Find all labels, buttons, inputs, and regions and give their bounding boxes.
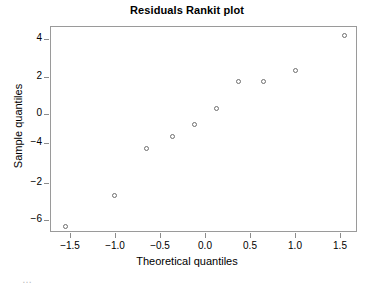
y-tick-mark <box>44 77 49 78</box>
x-tick-label: −1.0 <box>95 240 135 251</box>
x-tick-label: 1.5 <box>320 240 360 251</box>
data-point <box>342 33 347 38</box>
x-tick-label: −0.5 <box>140 240 180 251</box>
x-tick-label: 1.0 <box>275 240 315 251</box>
clipped-caption: … <box>0 276 374 285</box>
y-tick-label: 4 <box>12 32 42 43</box>
plot-area <box>50 26 357 232</box>
x-tick-label: 0.0 <box>185 240 225 251</box>
x-tick-mark <box>115 233 116 238</box>
y-tick-mark <box>44 114 49 115</box>
y-tick-label: −6 <box>12 213 42 224</box>
data-point <box>293 68 298 73</box>
page-title: Residuals Rankit plot <box>0 4 374 16</box>
y-tick-mark <box>44 183 49 184</box>
y-tick-mark <box>44 143 49 144</box>
x-tick-label: −1.5 <box>50 240 90 251</box>
x-tick-mark <box>295 233 296 238</box>
y-tick-mark <box>44 220 49 221</box>
x-tick-label: 0.5 <box>230 240 270 251</box>
x-tick-mark <box>250 233 251 238</box>
caption-text: … <box>22 276 33 285</box>
y-axis-title: Sample quantiles <box>12 46 24 206</box>
x-tick-mark <box>205 233 206 238</box>
y-tick-mark <box>44 39 49 40</box>
x-tick-mark <box>340 233 341 238</box>
rankit-plot-figure: Residuals Rankit plot −1.5−1.0−0.50.00.5… <box>0 0 374 285</box>
x-axis-title: Theoretical quantiles <box>0 255 374 267</box>
x-tick-mark <box>160 233 161 238</box>
x-tick-mark <box>70 233 71 238</box>
